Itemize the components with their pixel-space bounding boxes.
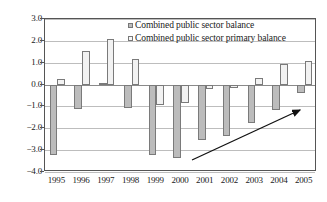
y-axis-tick-mark xyxy=(40,62,44,63)
bar xyxy=(149,85,157,155)
legend-label: Combined public sector primary balance xyxy=(135,32,286,45)
bar xyxy=(74,85,82,109)
bar xyxy=(305,61,313,85)
legend-swatch-icon xyxy=(128,23,133,28)
y-axis-tick-label: 2.0 xyxy=(2,36,42,45)
y-axis-tick-mark xyxy=(40,18,44,19)
legend-label: Combined public sector balance xyxy=(135,19,254,32)
bar xyxy=(124,85,132,108)
y-axis-tick-label: 0.0 xyxy=(2,80,42,89)
y-axis-tick-mark xyxy=(40,127,44,128)
bar xyxy=(206,85,214,89)
bar xyxy=(107,39,115,85)
bar xyxy=(181,85,189,104)
bar xyxy=(198,85,206,141)
bar xyxy=(230,85,238,88)
y-axis-tick-mark xyxy=(40,84,44,85)
bar xyxy=(156,85,164,106)
legend-item-combined-public-sector-balance: Combined public sector balance xyxy=(128,19,286,32)
bar xyxy=(99,83,107,85)
bar xyxy=(50,85,58,155)
y-axis-tick-label: −3.0 xyxy=(2,145,42,154)
y-axis-tick-mark xyxy=(40,149,44,150)
bar xyxy=(82,51,90,85)
bar xyxy=(173,85,181,158)
bar xyxy=(272,85,280,110)
y-axis-tick-label: 1.0 xyxy=(2,58,42,67)
y-axis-tick-mark xyxy=(40,171,44,172)
bar xyxy=(57,79,65,84)
y-axis-tick-mark xyxy=(40,105,44,106)
y-axis-tick-label: −1.0 xyxy=(2,101,42,110)
legend-item-combined-public-sector-primary-balance: Combined public sector primary balance xyxy=(128,32,286,45)
y-axis-tick-label: 3.0 xyxy=(2,14,42,23)
y-axis-tick-label: −2.0 xyxy=(2,123,42,132)
bar xyxy=(248,85,256,123)
gridline xyxy=(45,172,315,173)
bar xyxy=(255,78,263,85)
bar xyxy=(132,59,140,84)
y-axis-tick-mark xyxy=(40,40,44,41)
bar xyxy=(223,85,231,136)
chart-container: 3.02.01.00.0−1.0−2.0−3.0−4.0 19951996199… xyxy=(0,0,327,202)
x-axis-tick-label: 2005 xyxy=(290,176,318,185)
legend-swatch-icon xyxy=(128,36,133,41)
bar xyxy=(280,64,288,85)
chart-legend: Combined public sector balance Combined … xyxy=(128,19,286,45)
y-axis-tick-label: −4.0 xyxy=(2,167,42,176)
bar xyxy=(297,85,305,94)
